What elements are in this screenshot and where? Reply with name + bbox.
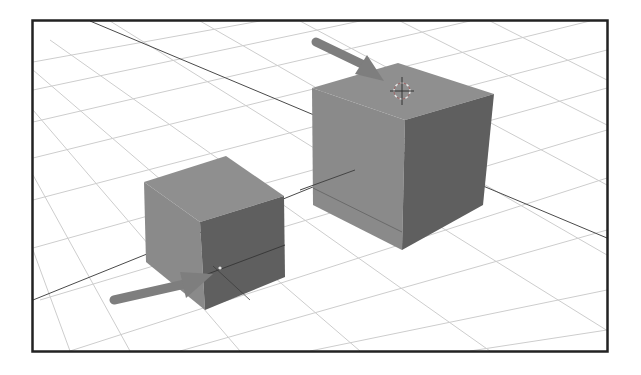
3d-viewport[interactable] — [0, 0, 641, 375]
origin-dot — [218, 266, 221, 269]
